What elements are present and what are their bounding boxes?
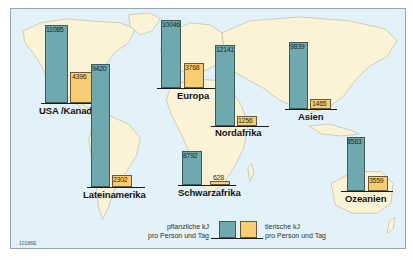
value-europa-plant: 10046 <box>162 21 180 29</box>
baseline-lateinamerika <box>87 187 145 188</box>
legend-swatch-animal <box>240 221 257 238</box>
legend-plant-label: pflanzliche kJ pro Person und Tag <box>143 223 209 240</box>
label-schwarzafrika: Schwarzafrika <box>178 187 241 198</box>
legend-animal-line1: tierische kJ <box>265 223 326 232</box>
value-lateinamerika-animal: 2302 <box>113 176 127 184</box>
world-map-background <box>11 9 405 248</box>
value-europa-animal: 3768 <box>185 64 199 72</box>
legend-animal-label: tierische kJ pro Person und Tag <box>265 223 326 240</box>
label-asien: Asien <box>298 111 323 122</box>
value-schwarzafrika-plant: 8792 <box>183 152 197 160</box>
value-ozeanien-animal: 3559 <box>369 177 383 185</box>
figure-id: 10188E <box>19 240 36 246</box>
value-nordafrika-animal: 1256 <box>238 117 252 125</box>
legend-swatch-plant <box>219 221 236 238</box>
bar-europa-plant <box>161 20 181 88</box>
value-asien-animal: 1465 <box>312 100 326 108</box>
value-nordafrika-plant: 12141 <box>216 46 234 54</box>
label-nordafrika: Nordafrika <box>215 127 262 138</box>
label-ozeanien: Ozeanien <box>345 193 386 204</box>
value-usa-kanada-plant: 11085 <box>46 26 63 34</box>
bar-nordafrika-plant <box>215 45 235 126</box>
value-usa-kanada-animal: 4396 <box>72 73 86 81</box>
chart-frame: 11085 4396 USA /Kanada 10046 3768 Europa… <box>10 8 406 249</box>
label-europa: Europa <box>177 90 209 101</box>
legend-plant-line2: pro Person und Tag <box>143 232 209 241</box>
label-usa-kanada: USA /Kanada <box>39 105 97 116</box>
baseline-ozeanien <box>341 191 393 192</box>
baseline-europa <box>157 88 215 89</box>
legend-baseline <box>211 238 263 239</box>
bar-lateinamerika-plant <box>91 64 110 187</box>
legend-animal-line2: pro Person und Tag <box>265 232 326 241</box>
value-ozeanien-plant: 8583 <box>347 138 361 146</box>
bar-usa-kanada-plant <box>45 25 68 103</box>
value-lateinamerika-plant: 9420 <box>92 65 106 73</box>
legend-plant-line1: pflanzliche kJ <box>143 223 209 232</box>
baseline-asien <box>285 109 337 110</box>
baseline-schwarzafrika <box>178 185 236 186</box>
value-schwarzafrika-animal: 628 <box>213 174 224 182</box>
label-lateinamerika: Lateinamerika <box>83 189 146 200</box>
value-asien-plant: 9839 <box>290 43 304 51</box>
bar-asien-plant <box>289 42 308 109</box>
